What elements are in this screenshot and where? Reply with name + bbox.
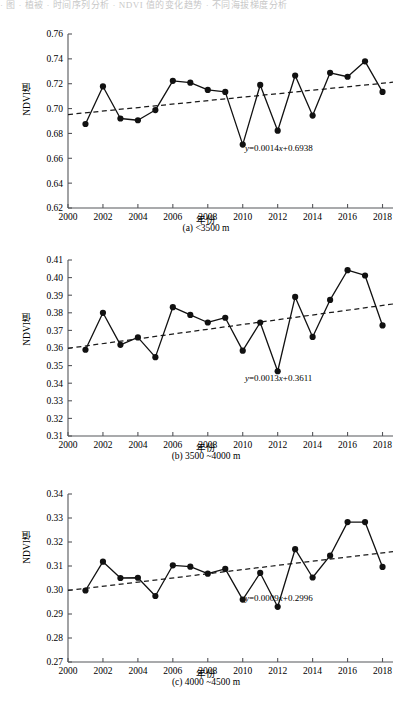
svg-text:0.40: 0.40 [46,273,63,283]
ndvi-trend-figure: · 图 · 植被 · 时间序列分析 · NDVI 值的变化趋势 · 不同海拔梯度… [0,0,412,715]
svg-text:0.32: 0.32 [46,537,63,547]
chart-panel-b: 0.310.320.330.340.350.360.370.380.390.40… [0,242,412,472]
svg-text:0.33: 0.33 [46,513,63,523]
svg-text:0.64: 0.64 [46,179,63,189]
panel-caption-b: (b) 3500 ~4000 m [0,451,412,461]
plot-area-c: 0.270.280.290.300.310.320.330.3420002002… [0,472,412,715]
y-axis-title-a: NDVI值 [20,82,34,116]
svg-text:0.66: 0.66 [46,154,63,164]
svg-text:0.36: 0.36 [46,343,63,353]
svg-text:0.28: 0.28 [46,633,63,643]
plot-area-b: 0.310.320.330.340.350.360.370.380.390.40… [0,242,412,472]
svg-text:0.74: 0.74 [46,54,63,64]
svg-text:0.34: 0.34 [46,379,63,389]
svg-text:0.41: 0.41 [46,255,63,265]
trend-equation-a: y=0.0014x+0.6938 [245,143,313,153]
line-chart-b: 0.310.320.330.340.350.360.370.380.390.40… [0,242,412,472]
svg-text:0.39: 0.39 [46,291,63,301]
svg-text:0.38: 0.38 [46,308,63,318]
y-axis-title-c: NDVI值 [20,530,34,564]
chart-panel-a: 0.620.640.660.680.700.720.740.7620002002… [0,12,412,242]
panel-caption-c: (c) 4000 ~4500 m [0,677,412,687]
svg-text:0.32: 0.32 [46,414,63,424]
svg-text:0.68: 0.68 [46,129,63,139]
page-text-fragment: · 图 · 植被 · 时间序列分析 · NDVI 值的变化趋势 · 不同海拔梯度… [0,0,412,10]
svg-text:0.70: 0.70 [46,104,63,114]
svg-text:0.33: 0.33 [46,396,63,406]
panel-caption-a: (a) <3500 m [0,223,412,233]
svg-text:0.30: 0.30 [46,585,63,595]
svg-text:0.35: 0.35 [46,361,63,371]
svg-text:0.34: 0.34 [46,489,63,499]
chart-panel-c: 0.270.280.290.300.310.320.330.3420002002… [0,472,412,715]
trend-equation-b: y=0.0013x+0.3611 [245,373,312,383]
svg-text:0.31: 0.31 [46,561,63,571]
y-axis-title-b: NDVI值 [20,312,34,346]
line-chart-a: 0.620.640.660.680.700.720.740.7620002002… [0,12,412,242]
plot-area-a: 0.620.640.660.680.700.720.740.7620002002… [0,12,412,242]
svg-text:0.37: 0.37 [46,326,63,336]
svg-text:0.29: 0.29 [46,609,63,619]
svg-text:0.72: 0.72 [46,79,63,89]
svg-text:0.76: 0.76 [46,29,63,39]
trend-equation-c: y=0.0009x+0.2996 [245,593,313,603]
